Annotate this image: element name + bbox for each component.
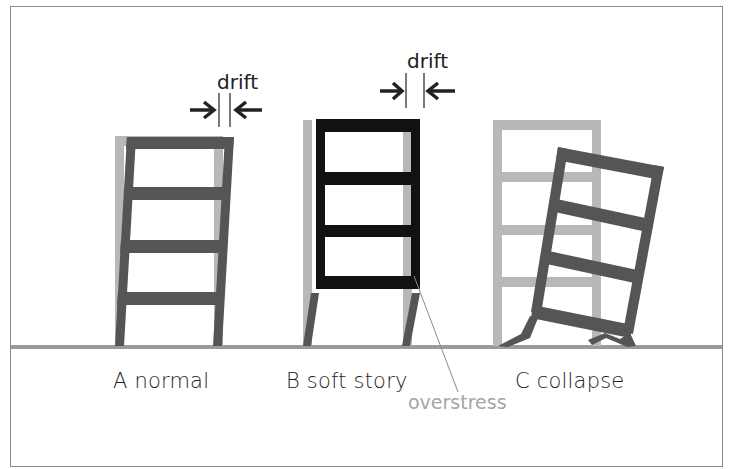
panel-label-b: B soft story (286, 369, 408, 393)
panel-label-c: C collapse (515, 369, 624, 393)
drift-indicator-a (190, 93, 262, 127)
panel-label-a: A normal (113, 369, 209, 393)
building-illustration (0, 0, 734, 469)
overstress-leader-line (414, 276, 458, 392)
drift-label-b: drift (407, 49, 448, 73)
drift-indicator-b (380, 73, 455, 108)
building-b-soft-story-columns (303, 293, 420, 346)
drift-label-a: drift (217, 70, 258, 94)
overstress-callout: overstress (408, 391, 507, 413)
